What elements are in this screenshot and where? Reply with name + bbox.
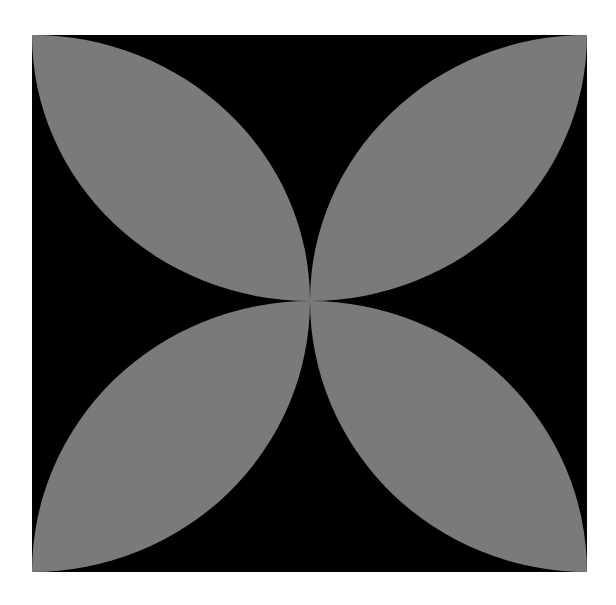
four-petal-figure — [0, 0, 616, 605]
figure-stage — [0, 0, 616, 605]
